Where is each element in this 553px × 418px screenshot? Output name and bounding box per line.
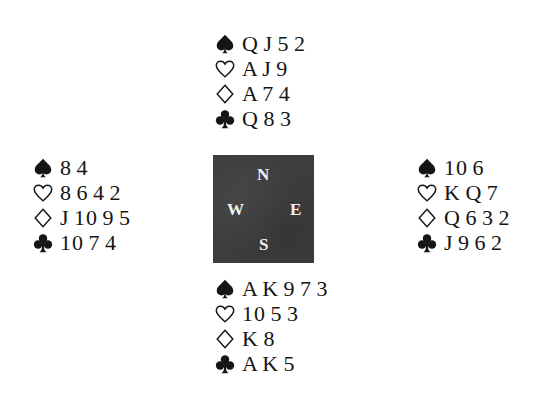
north-diamonds-row: A 7 4 xyxy=(214,81,306,106)
north-hand: Q J 5 2 A J 9 A 7 4 Q 8 3 xyxy=(214,31,306,131)
diamond-icon xyxy=(416,207,440,229)
club-icon xyxy=(214,108,238,130)
diamond-icon xyxy=(214,83,238,105)
east-spades-row: 10 6 xyxy=(416,155,510,180)
compass-west-label: W xyxy=(227,200,244,220)
north-hearts-row: A J 9 xyxy=(214,56,306,81)
east-clubs-row: J 9 6 2 xyxy=(416,230,510,255)
spade-icon xyxy=(214,33,238,55)
spade-icon xyxy=(214,278,238,300)
west-hand: 8 4 8 6 4 2 J 10 9 5 10 7 4 xyxy=(32,155,131,255)
south-spades-row: A K 9 7 3 xyxy=(214,276,329,301)
west-hearts-row: 8 6 4 2 xyxy=(32,180,131,205)
north-clubs-row: Q 8 3 xyxy=(214,106,306,131)
east-hand: 10 6 K Q 7 Q 6 3 2 J 9 6 2 xyxy=(416,155,510,255)
compass-south-label: S xyxy=(259,235,268,255)
east-diamonds: Q 6 3 2 xyxy=(444,205,510,230)
north-clubs: Q 8 3 xyxy=(242,106,292,131)
south-diamonds: K 8 xyxy=(242,326,275,351)
south-hand: A K 9 7 3 10 5 3 K 8 A K 5 xyxy=(214,276,329,376)
west-diamonds-row: J 10 9 5 xyxy=(32,205,131,230)
club-icon xyxy=(32,232,56,254)
spade-icon xyxy=(32,157,56,179)
south-clubs-row: A K 5 xyxy=(214,351,329,376)
spade-icon xyxy=(416,157,440,179)
north-spades: Q J 5 2 xyxy=(242,31,306,56)
north-hearts: A J 9 xyxy=(242,56,288,81)
west-clubs-row: 10 7 4 xyxy=(32,230,131,255)
heart-icon xyxy=(32,182,56,204)
south-hearts: 10 5 3 xyxy=(242,301,299,326)
north-spades-row: Q J 5 2 xyxy=(214,31,306,56)
west-hearts: 8 6 4 2 xyxy=(60,180,122,205)
heart-icon xyxy=(214,58,238,80)
east-hearts-row: K Q 7 xyxy=(416,180,510,205)
west-clubs: 10 7 4 xyxy=(60,230,117,255)
west-spades: 8 4 xyxy=(60,155,89,180)
club-icon xyxy=(416,232,440,254)
south-clubs: A K 5 xyxy=(242,351,296,376)
east-diamonds-row: Q 6 3 2 xyxy=(416,205,510,230)
compass-table: N W E S xyxy=(213,155,314,263)
east-clubs: J 9 6 2 xyxy=(444,230,503,255)
diamond-icon xyxy=(32,207,56,229)
west-diamonds: J 10 9 5 xyxy=(60,205,131,230)
heart-icon xyxy=(416,182,440,204)
south-spades: A K 9 7 3 xyxy=(242,276,329,301)
compass-east-label: E xyxy=(290,200,301,220)
south-diamonds-row: K 8 xyxy=(214,326,329,351)
south-hearts-row: 10 5 3 xyxy=(214,301,329,326)
compass-north-label: N xyxy=(257,165,269,185)
east-spades: 10 6 xyxy=(444,155,485,180)
east-hearts: K Q 7 xyxy=(444,180,499,205)
heart-icon xyxy=(214,303,238,325)
west-spades-row: 8 4 xyxy=(32,155,131,180)
diamond-icon xyxy=(214,328,238,350)
club-icon xyxy=(214,353,238,375)
north-diamonds: A 7 4 xyxy=(242,81,291,106)
